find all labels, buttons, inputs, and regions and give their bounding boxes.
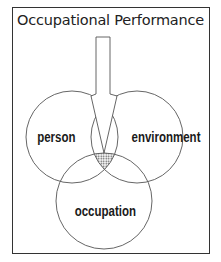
person-label: person <box>37 129 75 145</box>
shaded-intersection <box>56 153 152 249</box>
arrow-down-icon <box>91 37 117 153</box>
environment-label: environment <box>132 129 201 145</box>
occupation-label: occupation <box>75 203 136 219</box>
